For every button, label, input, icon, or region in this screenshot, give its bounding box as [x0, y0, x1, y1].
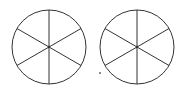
small-dot	[99, 72, 101, 74]
circles-group	[12, 10, 174, 84]
divided-circle-right	[100, 10, 174, 84]
center-point	[48, 46, 50, 48]
center-point	[136, 46, 138, 48]
diagram-canvas	[0, 0, 178, 91]
divided-circle-left	[12, 10, 86, 84]
